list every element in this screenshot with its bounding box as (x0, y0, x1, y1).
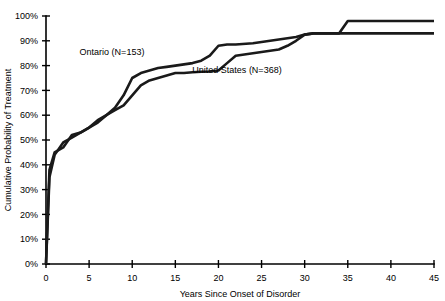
x-tick-label: 15 (170, 273, 180, 283)
x-tick-label: 20 (213, 273, 223, 283)
y-axis-title: Cumulative Probability of Treatment (3, 68, 13, 211)
series-annotation-1: Ontario (N=153) (80, 47, 145, 57)
line-chart: 0%10%20%30%40%50%60%70%80%90%100% 051015… (0, 0, 445, 301)
x-tick-label: 25 (257, 273, 267, 283)
y-tick-label: 100% (15, 11, 38, 21)
chart-container: 0%10%20%30%40%50%60%70%80%90%100% 051015… (0, 0, 445, 301)
x-tick-labels: 051015202530354045 (43, 273, 439, 283)
series-annotations: Ontario (N=153)United States (N=368) (80, 47, 282, 75)
y-tick-label: 70% (20, 86, 38, 96)
x-tick-label: 0 (43, 273, 48, 283)
y-tick-label: 30% (20, 185, 38, 195)
x-tick-label: 45 (429, 273, 439, 283)
series-annotation-2: United States (N=368) (192, 65, 281, 75)
y-tick-label: 50% (20, 135, 38, 145)
y-tick-label: 40% (20, 160, 38, 170)
y-tick-label: 60% (20, 110, 38, 120)
y-tick-label: 80% (20, 61, 38, 71)
x-tick-label: 10 (127, 273, 137, 283)
x-tick-label: 5 (87, 273, 92, 283)
y-tick-label: 20% (20, 210, 38, 220)
x-tick-label: 40 (386, 273, 396, 283)
y-tick-label: 10% (20, 234, 38, 244)
y-tick-label: 90% (20, 36, 38, 46)
x-axis-title: Years Since Onset of Disorder (180, 289, 301, 299)
y-tick-labels: 0%10%20%30%40%50%60%70%80%90%100% (15, 11, 38, 269)
x-tick-label: 35 (343, 273, 353, 283)
data-series (46, 21, 434, 264)
series-line-1 (46, 21, 434, 264)
y-tick-label: 0% (25, 259, 38, 269)
x-tick-label: 30 (300, 273, 310, 283)
